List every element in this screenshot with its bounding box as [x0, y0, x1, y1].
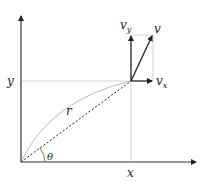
- theta-label: θ: [47, 151, 53, 162]
- x-label: x: [127, 166, 134, 180]
- v-label: v: [154, 22, 161, 36]
- angle-arc: [40, 148, 45, 162]
- vy-label: vy: [120, 18, 132, 34]
- y-label: y: [6, 74, 14, 88]
- vx-label: vx: [156, 74, 168, 90]
- v-vector: [131, 36, 152, 81]
- radius-line: [21, 81, 131, 162]
- velocity-diagram: y x r θ v vy vx: [0, 0, 206, 182]
- r-label: r: [66, 104, 73, 118]
